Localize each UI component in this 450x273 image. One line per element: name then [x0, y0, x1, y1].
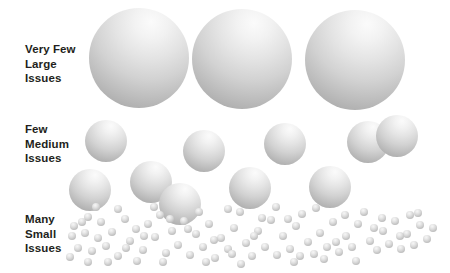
issue-bubble-sm: [290, 258, 298, 266]
issue-bubble-sm: [254, 227, 262, 235]
issue-bubble-sm: [414, 209, 422, 217]
issue-bubble-sm: [205, 220, 213, 228]
issue-bubble-sm: [150, 203, 158, 211]
issue-bubble-sm: [70, 222, 78, 230]
issue-bubble-sm: [366, 237, 374, 245]
label-very-few-large-issues: Very Few Large Issues: [25, 42, 76, 86]
issue-bubble-sm: [423, 235, 431, 243]
issue-bubble-sm: [332, 238, 340, 246]
issue-bubble-sm: [66, 253, 74, 261]
issue-bubble-sm: [304, 238, 312, 246]
issue-bubble-sm: [360, 208, 368, 216]
issue-bubble-sm: [168, 227, 176, 235]
issue-bubble-sm: [261, 243, 269, 251]
issue-bubble-sm: [139, 246, 147, 254]
issue-bubble-sm: [92, 203, 100, 211]
issue-bubble-sm: [230, 224, 238, 232]
issue-bubble-md: [347, 121, 389, 163]
issue-bubble-md: [183, 130, 225, 172]
issue-bubble-sm: [329, 218, 337, 226]
issue-bubble-sm: [429, 224, 437, 232]
issue-bubble-sm: [310, 250, 318, 258]
issue-bubble-sm: [132, 225, 140, 233]
issue-bubble-sm: [122, 244, 130, 252]
issue-bubble-sm: [180, 217, 188, 225]
issue-bubble-sm: [267, 216, 275, 224]
issue-bubble-sm: [242, 239, 250, 247]
issue-bubble-sm: [416, 221, 424, 229]
issue-bubble-sm: [373, 246, 381, 254]
issue-bubble-md: [159, 183, 201, 225]
issue-bubble-sm: [81, 229, 89, 237]
issue-bubble-sm: [284, 215, 292, 223]
issue-bubble-sm: [298, 210, 306, 218]
issue-bubble-sm: [84, 213, 92, 221]
issue-bubble-sm: [121, 215, 129, 223]
issue-bubble-sm: [292, 222, 300, 230]
issue-bubble-sm: [202, 258, 210, 266]
issue-bubble-sm: [224, 205, 232, 213]
issue-bubble-sm: [323, 243, 331, 251]
label-few-medium-issues: Few Medium Issues: [25, 122, 69, 166]
issue-bubble-sm: [88, 247, 96, 255]
issue-bubble-sm: [397, 245, 405, 253]
issue-bubble-sm: [159, 258, 167, 266]
issue-bubble-sm: [279, 232, 287, 240]
issue-bubble-sm: [224, 245, 232, 253]
issue-bubble-sm: [97, 218, 105, 226]
issue-bubble-sm: [250, 232, 258, 240]
issue-bubble-sm: [126, 237, 134, 245]
issue-bubble-sm: [248, 252, 256, 260]
issue-bubble-sm: [391, 217, 399, 225]
issue-bubble-sm: [273, 251, 281, 259]
issue-bubble-sm: [396, 232, 404, 240]
issue-bubble-sm: [184, 225, 192, 233]
issue-bubble-sm: [140, 232, 148, 240]
issue-size-pyramid-diagram: Very Few Large Issues Few Medium Issues …: [0, 0, 450, 273]
issue-bubble-sm: [195, 208, 203, 216]
issue-bubble-sm: [114, 205, 122, 213]
issue-bubble-sm: [228, 250, 236, 258]
issue-bubble-sm: [258, 214, 266, 222]
issue-bubble-sm: [348, 243, 356, 251]
issue-bubble-sm: [210, 236, 218, 244]
issue-bubble-sm: [94, 234, 102, 242]
issue-bubble-sm: [378, 214, 386, 222]
label-many-small-issues: Many Small Issues: [25, 212, 61, 256]
issue-bubble-sm: [341, 211, 349, 219]
issue-bubble-md: [376, 115, 418, 157]
issue-bubble-sm: [133, 257, 141, 265]
issue-bubble-sm: [102, 242, 110, 250]
issue-bubble-md: [264, 123, 306, 165]
issue-bubble-lg: [89, 8, 189, 108]
issue-bubble-sm: [342, 232, 350, 240]
issue-bubble-md: [309, 166, 351, 208]
issue-bubble-sm: [316, 229, 324, 237]
issue-bubble-sm: [192, 230, 200, 238]
issue-bubble-sm: [296, 252, 304, 260]
issue-bubble-sm: [335, 248, 343, 256]
issue-bubble-sm: [174, 241, 182, 249]
issue-bubble-sm: [403, 230, 411, 238]
issue-bubble-sm: [108, 228, 116, 236]
issue-bubble-sm: [68, 232, 76, 240]
issue-bubble-sm: [286, 245, 294, 253]
issue-bubble-sm: [385, 240, 393, 248]
issue-bubble-sm: [217, 234, 225, 242]
issue-bubble-sm: [156, 211, 164, 219]
issue-bubble-sm: [166, 215, 174, 223]
issue-bubble-sm: [74, 244, 82, 252]
issue-bubble-sm: [186, 251, 194, 259]
issue-bubble-sm: [144, 220, 152, 228]
issue-bubble-sm: [236, 208, 244, 216]
issue-bubble-md: [130, 161, 172, 203]
issue-bubble-sm: [151, 233, 159, 241]
issue-bubble-sm: [379, 227, 387, 235]
issue-bubble-sm: [84, 258, 92, 266]
issue-bubble-sm: [312, 204, 320, 212]
issue-bubble-md: [69, 169, 111, 211]
issue-bubble-md: [229, 167, 271, 209]
issue-bubble-md: [85, 120, 127, 162]
issue-bubble-sm: [114, 252, 122, 260]
issue-bubble-sm: [237, 260, 245, 268]
